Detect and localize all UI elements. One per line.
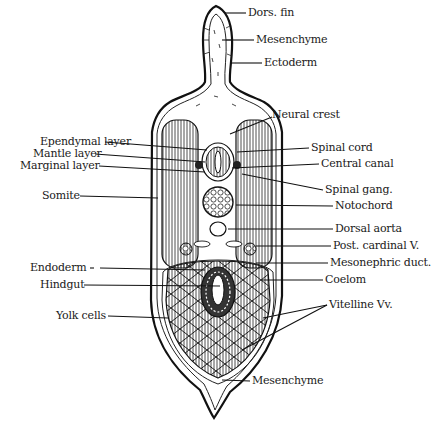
label-post-cardinal-v: Post. cardinal V. bbox=[333, 240, 419, 252]
somite-left bbox=[162, 120, 198, 268]
label-endoderm: Endoderm bbox=[30, 262, 86, 274]
dorsal-aorta bbox=[210, 222, 226, 236]
label-mesenchyme-bottom: Mesenchyme bbox=[252, 375, 323, 387]
mesonephric-right bbox=[244, 243, 256, 255]
label-ectoderm: Ectoderm bbox=[264, 57, 317, 69]
mesonephric-left bbox=[180, 243, 192, 255]
label-vitelline-vv: Vitelline Vv. bbox=[329, 299, 393, 311]
label-neural-crest: Neural crest bbox=[272, 109, 340, 121]
label-mesonephric-duct: Mesonephric duct. bbox=[330, 257, 431, 269]
label-hindgut: Hindgut bbox=[40, 279, 84, 291]
notochord bbox=[203, 187, 233, 217]
label-central-canal: Central canal bbox=[321, 158, 394, 170]
label-somite: Somite bbox=[42, 190, 80, 202]
label-spinal-gang: Spinal gang. bbox=[325, 184, 393, 196]
hindgut bbox=[201, 267, 235, 317]
diagram-drawing bbox=[0, 0, 447, 428]
label-coelom: Coelom bbox=[325, 274, 366, 286]
label-marginal-layer: Marginal layer bbox=[20, 160, 100, 172]
label-mesenchyme-top: Mesenchyme bbox=[256, 34, 327, 46]
label-dorsal-aorta: Dorsal aorta bbox=[335, 223, 402, 235]
label-notochord: Notochord bbox=[335, 200, 393, 212]
label-dors-fin: Dors. fin bbox=[248, 7, 294, 19]
label-spinal-cord: Spinal cord bbox=[311, 142, 373, 154]
embryo-cross-section-diagram: Dors. fin Mesenchyme Ectoderm Neural cre… bbox=[0, 0, 447, 428]
label-yolk-cells: Yolk cells bbox=[56, 310, 106, 322]
